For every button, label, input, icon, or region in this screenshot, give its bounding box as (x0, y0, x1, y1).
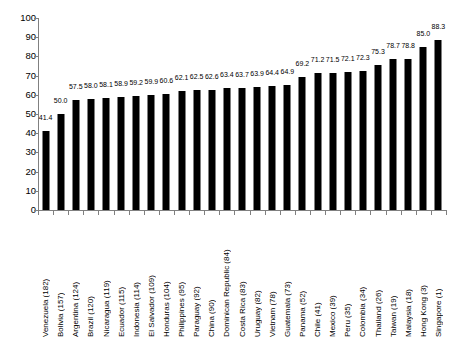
x-axis-category-label: Taiwan (19) (389, 217, 398, 337)
bar[interactable] (133, 96, 140, 210)
x-axis-tick-mark (401, 211, 402, 215)
x-axis-category-label: Uruguay (82) (253, 217, 262, 337)
x-axis-category-label: Singapore (1) (434, 217, 443, 337)
bar[interactable] (314, 73, 321, 210)
x-axis-tick-mark (265, 211, 266, 215)
bar[interactable] (420, 47, 427, 210)
bar-slot: 58.1 (98, 18, 113, 210)
bar-slot: 63.7 (234, 18, 249, 210)
x-axis-category-label: Guatemala (73) (283, 217, 292, 337)
x-axis-tick-mark (250, 211, 251, 215)
bar-value-label: 71.2 (311, 56, 325, 64)
bar-slot: 58.9 (114, 18, 129, 210)
bar[interactable] (329, 73, 336, 210)
y-axis-tick-label: 10 (0, 185, 36, 197)
x-axis-tick-mark (189, 211, 190, 215)
x-axis-tick-mark (98, 211, 99, 215)
x-axis-category-label: Nicaragua (119) (102, 217, 111, 337)
bar-slot: 78.8 (401, 18, 416, 210)
x-axis-tick-mark (416, 211, 417, 215)
bar-slot: 59.2 (129, 18, 144, 210)
bar[interactable] (299, 77, 306, 210)
bar-value-label: 57.5 (69, 83, 83, 91)
bar[interactable] (178, 91, 185, 210)
bar-slot: 72.3 (355, 18, 370, 210)
x-axis-category-label: Costa Rica (83) (238, 217, 247, 337)
bar[interactable] (344, 72, 351, 210)
bar[interactable] (390, 59, 397, 210)
bar-slot: 59.9 (144, 18, 159, 210)
bar-slot: 62.1 (174, 18, 189, 210)
y-axis-tick-label: 90 (0, 31, 36, 43)
x-axis-tick-mark (68, 211, 69, 215)
x-axis-tick-mark (340, 211, 341, 215)
bar[interactable] (42, 131, 49, 210)
bar[interactable] (254, 87, 261, 210)
x-axis-category-label: El Salvador (109) (147, 217, 156, 337)
bar[interactable] (102, 98, 109, 210)
x-axis-tick-mark (129, 211, 130, 215)
bar[interactable] (374, 65, 381, 210)
bar[interactable] (238, 88, 245, 210)
x-axis-tick-mark (325, 211, 326, 215)
bar-slot: 69.2 (295, 18, 310, 210)
y-axis-tick-label: 70 (0, 70, 36, 82)
bar-value-label: 59.9 (145, 78, 159, 86)
x-axis-category-label: China (90) (207, 217, 216, 337)
x-axis-tick-mark (370, 211, 371, 215)
bar-slot: 50.0 (53, 18, 68, 210)
x-axis-category-label: Hong Kong (3) (419, 217, 428, 337)
bar[interactable] (208, 90, 215, 210)
bar-value-label: 41.4 (39, 114, 53, 122)
x-axis-tick-mark (38, 211, 39, 215)
x-axis-category-label: Indonesia (114) (132, 217, 141, 337)
bar[interactable] (223, 88, 230, 210)
bar-slot: 64.4 (265, 18, 280, 210)
bar-value-label: 62.5 (190, 73, 204, 81)
bar[interactable] (57, 114, 64, 210)
x-axis-tick-mark (53, 211, 54, 215)
bar[interactable] (193, 90, 200, 210)
bar-value-label: 58.9 (114, 80, 128, 88)
bar-slot: 71.5 (325, 18, 340, 210)
x-axis-category-label: Thailand (26) (374, 217, 383, 337)
bar-value-label: 71.5 (326, 56, 340, 64)
x-axis-tick-mark (386, 211, 387, 215)
bar-value-label: 63.9 (250, 70, 264, 78)
x-axis-category-label: Argentina (124) (71, 217, 80, 337)
bar[interactable] (405, 59, 412, 210)
x-axis-tick-mark (446, 211, 447, 215)
bar-value-label: 72.1 (341, 55, 355, 63)
bar-slot: 75.3 (370, 18, 385, 210)
bar[interactable] (87, 99, 94, 210)
x-axis-tick-mark (310, 211, 311, 215)
bar-value-label: 78.8 (401, 42, 415, 50)
x-axis-tick-mark (174, 211, 175, 215)
bar-value-label: 60.6 (160, 77, 174, 85)
x-axis-tick-mark (431, 211, 432, 215)
bar-slot: 62.6 (204, 18, 219, 210)
bar[interactable] (72, 100, 79, 210)
x-axis-category-label: Paraguay (92) (192, 217, 201, 337)
bar-slot: 58.0 (83, 18, 98, 210)
y-axis-tick-label: 80 (0, 50, 36, 62)
x-axis-tick-mark (204, 211, 205, 215)
x-axis-category-label: Philippines (95) (177, 217, 186, 337)
y-axis-tick-label: 20 (0, 166, 36, 178)
bar[interactable] (118, 97, 125, 210)
bar[interactable] (359, 71, 366, 210)
bar[interactable] (269, 86, 276, 210)
bar-value-label: 63.4 (220, 71, 234, 79)
x-axis-tick-mark (114, 211, 115, 215)
bar[interactable] (284, 85, 291, 210)
bar[interactable] (148, 95, 155, 210)
bar[interactable] (435, 40, 442, 210)
x-axis-category-label: Mexico (39) (328, 217, 337, 337)
bar-value-label: 64.9 (281, 68, 295, 76)
bar-value-label: 85.0 (417, 30, 431, 38)
x-axis-category-label: Colombia (34) (358, 217, 367, 337)
bar[interactable] (163, 94, 170, 210)
bar-slot: 72.1 (340, 18, 355, 210)
x-axis-tick-mark (280, 211, 281, 215)
bar-slot: 88.3 (431, 18, 446, 210)
